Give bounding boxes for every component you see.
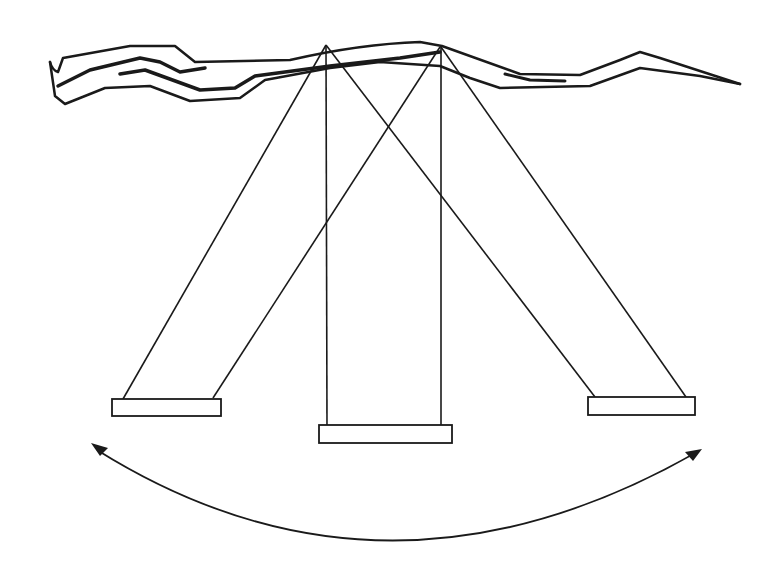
- swing-center: [319, 45, 452, 443]
- branch-inner-ridge-2: [120, 52, 440, 90]
- motion-arrow: [91, 443, 702, 541]
- motion-arc: [97, 450, 697, 541]
- seat-center: [319, 425, 452, 443]
- rope-right-a: [326, 45, 595, 397]
- branch-outline-bottom: [50, 62, 740, 104]
- arrow-head-left-icon: [91, 443, 108, 456]
- swing-diagram: [0, 0, 773, 573]
- arrow-head-right-icon: [685, 449, 702, 461]
- rope-right-b: [441, 47, 686, 397]
- swing-right: [326, 45, 695, 415]
- swing-left: [112, 45, 440, 416]
- seat-right: [588, 397, 695, 415]
- rope-center-a: [326, 45, 327, 425]
- seat-left: [112, 399, 221, 416]
- tree-branch: [50, 42, 740, 104]
- diagram-canvas: [0, 0, 773, 573]
